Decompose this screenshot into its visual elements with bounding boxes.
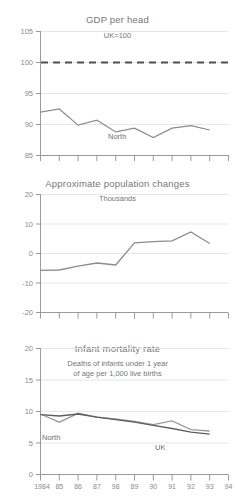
x-tick-label-94: 94 [225,483,233,490]
x-tick-label-93: 93 [206,483,214,490]
svg-text:-20: -20 [22,308,33,317]
chart-panel-infant-mortality-rate: Infant mortality rate Deaths of infants … [0,340,235,504]
series-line-north-infant-mortality [41,413,210,431]
svg-text:0: 0 [29,470,33,479]
svg-text:100: 100 [20,58,33,67]
svg-text:0: 0 [29,249,33,258]
gridlines-infant-mortality [40,349,228,444]
x-tick-label-91: 91 [168,483,176,490]
chart-svg-population: 20 10 0 -10 -20 [0,170,235,340]
x-tick-label-89: 89 [131,483,139,490]
svg-text:5: 5 [29,439,33,448]
chart-panel-population-changes: Approximate population changes Thousands [0,170,235,340]
svg-text:95: 95 [25,89,33,98]
series-label-uk-infant-mortality: UK [155,443,165,452]
x-tick-label-86: 86 [74,483,82,490]
gridlines-population [40,195,228,284]
x-tick-label-90: 90 [149,483,157,490]
x-axis-tick-labels: 1984 85 86 87 98 89 90 91 92 93 94 [0,483,235,495]
chart-panel-gdp-per-head: GDP per head UK=100 [0,0,235,170]
series-label-north-infant-mortality: North [42,433,60,442]
x-ticks-infant-mortality [41,475,229,481]
x-ticks-population [41,313,229,319]
x-tick-label-92: 92 [187,483,195,490]
x-tick-label-88: 98 [112,483,120,490]
svg-text:90: 90 [25,120,33,129]
svg-text:10: 10 [25,407,33,416]
chart-svg-gdp: 105 100 95 90 85 [0,0,235,170]
series-line-uk-infant-mortality [41,414,210,434]
series-label-north-gdp: North [108,132,126,141]
y-tick-labels-infant-mortality: 20 15 10 5 0 [25,344,33,479]
svg-text:15: 15 [25,376,33,385]
svg-text:-10: -10 [22,279,33,288]
x-tick-label-85: 85 [55,483,63,490]
y-ticks-gdp [36,32,40,156]
svg-text:20: 20 [25,344,33,353]
chart-svg-infant-mortality: 20 15 10 5 0 [0,340,235,504]
svg-text:85: 85 [25,151,33,160]
x-tick-label-87: 87 [93,483,101,490]
svg-text:105: 105 [20,27,33,36]
x-tick-label-1984: 1984 [34,483,50,490]
y-ticks-infant-mortality [36,349,40,475]
y-ticks-population [36,195,40,313]
svg-text:20: 20 [25,190,33,199]
svg-text:10: 10 [25,220,33,229]
y-tick-labels-gdp: 105 100 95 90 85 [20,27,33,160]
y-tick-labels-population: 20 10 0 -10 -20 [22,190,33,317]
gridlines-gdp [40,32,228,125]
series-line-population [41,232,210,270]
